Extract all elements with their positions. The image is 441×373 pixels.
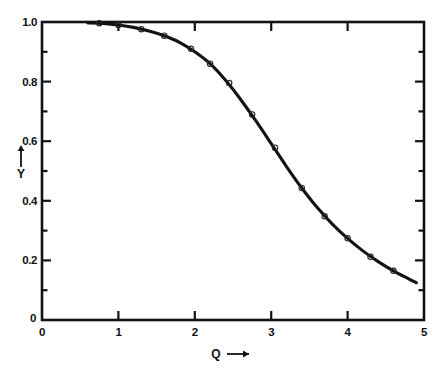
y-axis-label-group: Y	[17, 145, 25, 181]
y-tick-label: 0.6	[22, 135, 37, 147]
chart-figure: 12345 0.20.40.60.81.0 --> Q Y 0 0	[0, 0, 441, 373]
x-tick-labels: 12345	[115, 326, 428, 338]
x-axis-arrow-head-icon	[243, 351, 249, 358]
y-tick-label: 0.2	[22, 254, 37, 266]
y-tick-label: 0.4	[22, 195, 38, 207]
data-point-markers	[97, 20, 397, 273]
x-tick-label: 1	[115, 326, 122, 338]
y-tick-labels: 0.20.40.60.81.0	[22, 16, 38, 266]
origin-y-label: 0	[30, 312, 36, 324]
x-tick-label: 4	[345, 326, 352, 338]
data-curve	[88, 23, 417, 283]
tick-marks	[42, 22, 424, 320]
x-tick-label: 2	[192, 326, 198, 338]
plot-frame	[42, 22, 424, 320]
y-tick-label: 1.0	[22, 16, 37, 28]
x-axis-label-group: Q	[211, 347, 249, 361]
x-tick-label: 5	[421, 326, 428, 338]
y-tick-label: 0.8	[22, 76, 38, 88]
axes-border	[42, 22, 424, 320]
x-axis-label: Q	[211, 347, 220, 361]
x-tick-label: 3	[268, 326, 274, 338]
y-axis-label: Y	[17, 167, 25, 181]
origin-x-label: 0	[39, 326, 45, 338]
sigmoid-decay-plot: 12345 0.20.40.60.81.0 --> Q Y 0 0	[0, 0, 441, 373]
